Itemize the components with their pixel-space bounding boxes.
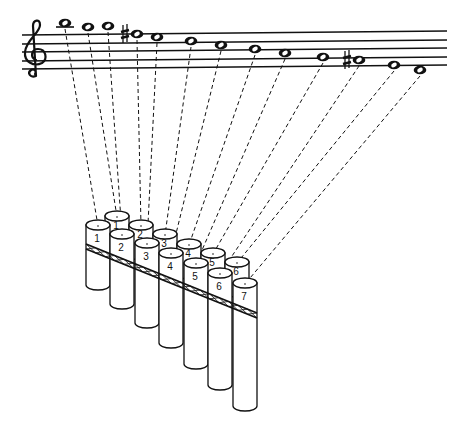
pipe-center-dot bbox=[244, 283, 246, 285]
pan-flute-diagram: 123456 1234567 bbox=[0, 0, 471, 422]
pipe-opening bbox=[208, 268, 232, 278]
front-pipe-4: 4 bbox=[159, 248, 183, 348]
note-9 bbox=[279, 49, 292, 58]
pipe-number-label: 3 bbox=[161, 238, 167, 249]
dashed-line-F1 bbox=[65, 29, 98, 226]
pipe-opening bbox=[86, 220, 110, 230]
pipe-number-label: 6 bbox=[216, 281, 222, 292]
pipe-number-label: 4 bbox=[167, 261, 173, 272]
pipe-center-dot bbox=[146, 243, 148, 245]
note-13 bbox=[414, 66, 427, 75]
staff-line bbox=[22, 65, 447, 69]
staff-line bbox=[22, 57, 447, 61]
note-5 bbox=[151, 33, 164, 42]
pipe-center-dot bbox=[170, 253, 172, 255]
pipe-number-label: 1 bbox=[94, 233, 100, 244]
note-6 bbox=[185, 37, 198, 46]
front-pipe-3: 3 bbox=[135, 238, 159, 328]
pipe-number-label: 3 bbox=[143, 251, 149, 262]
pipe-number-label: 4 bbox=[185, 248, 191, 259]
note-7 bbox=[215, 41, 228, 50]
pipe-center-dot bbox=[212, 253, 214, 255]
staff-line bbox=[22, 40, 447, 44]
diagram-canvas: 123456 1234567 bbox=[0, 0, 471, 422]
front-pipe-5: 5 bbox=[184, 258, 208, 369]
pipe-center-dot bbox=[116, 216, 118, 218]
note-12 bbox=[388, 61, 401, 70]
pipe-center-dot bbox=[236, 262, 238, 264]
pipe-number-label: 6 bbox=[233, 266, 239, 277]
staff-line bbox=[22, 48, 447, 52]
front-pipe-1: 1 bbox=[86, 220, 110, 290]
front-pipe-2: 2 bbox=[110, 229, 134, 309]
pipe-center-dot bbox=[97, 225, 99, 227]
dashed-line-B6 bbox=[237, 71, 394, 263]
pipe-number-label: 2 bbox=[118, 242, 124, 253]
pipe-opening bbox=[159, 248, 183, 258]
dashed-line-F7 bbox=[245, 76, 420, 284]
pipe-center-dot bbox=[140, 225, 142, 227]
music-staff bbox=[22, 31, 447, 69]
front-pipe-6: 6 bbox=[208, 268, 232, 390]
pipe-opening bbox=[110, 229, 134, 239]
note-1 bbox=[56, 19, 74, 28]
pipe-center-dot bbox=[164, 234, 166, 236]
dashed-line-F3 bbox=[147, 43, 157, 244]
pipe-opening bbox=[135, 238, 159, 248]
pipe-center-dot bbox=[188, 244, 190, 246]
pipe-center-dot bbox=[219, 273, 221, 275]
pipe-number-label: 5 bbox=[192, 271, 198, 282]
note-8 bbox=[249, 45, 262, 54]
note-10 bbox=[317, 53, 330, 62]
pipe-center-dot bbox=[195, 263, 197, 265]
dashed-line-B3 bbox=[165, 47, 191, 235]
front-pipe-7: 7 bbox=[233, 278, 257, 411]
front-row-pipes: 1234567 bbox=[86, 220, 257, 411]
pipe-center-dot bbox=[121, 234, 123, 236]
dashed-line-F5 bbox=[196, 59, 285, 264]
note-3 bbox=[102, 22, 115, 31]
pipe-opening bbox=[233, 278, 257, 288]
dashed-line-F2 bbox=[108, 32, 122, 235]
staff-line bbox=[22, 31, 447, 35]
pipe-opening bbox=[184, 258, 208, 268]
pipe-number-label: 7 bbox=[241, 291, 247, 302]
note-2 bbox=[82, 23, 95, 32]
pipe-number-label: 5 bbox=[209, 257, 215, 268]
pipe-body bbox=[233, 283, 257, 411]
